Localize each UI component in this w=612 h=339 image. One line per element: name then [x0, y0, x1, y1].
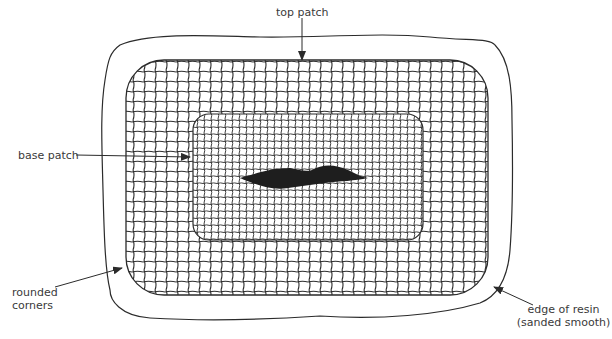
top-patch-label: top patch	[276, 6, 329, 19]
rounded-corners-line1: rounded	[12, 286, 52, 299]
rounded-corners-arrow	[55, 268, 122, 287]
patch-diagram	[0, 0, 612, 339]
rounded-corners-label: rounded corners	[12, 286, 52, 312]
rounded-corners-line2: corners	[12, 299, 52, 312]
base-patch-label: base patch	[18, 149, 79, 162]
edge-of-resin-line1: edge of resin	[515, 303, 612, 316]
edge-of-resin-line2: (sanded smooth)	[515, 316, 612, 329]
edge-of-resin-label: edge of resin (sanded smooth)	[515, 303, 612, 329]
